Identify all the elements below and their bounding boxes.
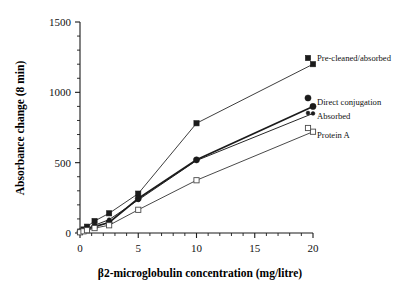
x-axis-tick-labels: 05101520 xyxy=(77,242,319,254)
data-point-marker xyxy=(194,121,199,126)
legend-label: Absorbed xyxy=(317,111,351,121)
x-axis-title: β2-microglobulin concentration (mg/litre… xyxy=(98,267,302,280)
legend-item-pre-cleaned-absorbed[interactable]: Pre-cleaned/absorbed xyxy=(305,53,391,63)
legend-label: Direct conjugation xyxy=(317,97,382,107)
data-point-marker xyxy=(92,225,97,230)
x-tick-label: 15 xyxy=(249,242,261,254)
y-axis-title: Absorbance change (8 min) xyxy=(14,61,27,196)
series-absorbed xyxy=(78,112,315,234)
data-point-marker xyxy=(107,223,112,228)
legend-label: Protein A xyxy=(317,130,350,140)
data-series-layer xyxy=(77,62,316,235)
data-point-marker xyxy=(107,211,112,216)
data-point-marker xyxy=(305,55,310,60)
data-point-marker xyxy=(107,218,111,222)
y-tick-label: 1000 xyxy=(49,86,72,98)
legend-marker-icon xyxy=(305,95,311,101)
x-tick-label: 5 xyxy=(136,242,142,254)
data-point-marker xyxy=(195,159,199,163)
legend-marker-icon xyxy=(305,125,310,130)
data-point-marker xyxy=(136,207,141,212)
chart-figure: 050010001500 05101520 Pre-cleaned/absorb… xyxy=(0,0,418,287)
y-tick-label: 0 xyxy=(66,227,72,239)
series-pre-cleaned-absorbed xyxy=(77,62,315,235)
y-axis-tick-labels: 050010001500 xyxy=(49,16,72,239)
series-line xyxy=(80,64,313,231)
data-point-marker xyxy=(311,112,315,116)
data-point-marker xyxy=(305,125,310,130)
y-axis-ticks xyxy=(75,22,80,233)
series-line xyxy=(80,113,313,231)
legend-item-direct-conjugation[interactable]: Direct conjugation xyxy=(305,95,382,107)
line-chart-canvas: 050010001500 05101520 Pre-cleaned/absorb… xyxy=(0,0,418,287)
x-axis-ticks xyxy=(80,233,313,238)
data-point-marker xyxy=(310,129,315,134)
legend-label: Pre-cleaned/absorbed xyxy=(317,53,392,63)
y-tick-label: 500 xyxy=(55,157,72,169)
data-point-marker xyxy=(310,62,315,67)
data-point-marker xyxy=(92,218,97,223)
chart-legend: Pre-cleaned/absorbedDirect conjugationAb… xyxy=(305,53,392,140)
data-point-marker xyxy=(194,178,199,183)
x-tick-label: 10 xyxy=(191,242,203,254)
y-tick-label: 1500 xyxy=(49,16,72,28)
data-point-marker xyxy=(310,103,316,109)
x-tick-label: 0 xyxy=(77,242,83,254)
data-point-marker xyxy=(306,111,310,115)
data-point-marker xyxy=(305,95,311,101)
data-point-marker xyxy=(84,228,89,233)
legend-marker-icon xyxy=(305,55,310,60)
data-point-marker xyxy=(136,198,140,202)
x-tick-label: 20 xyxy=(308,242,320,254)
legend-marker-icon xyxy=(306,111,310,115)
